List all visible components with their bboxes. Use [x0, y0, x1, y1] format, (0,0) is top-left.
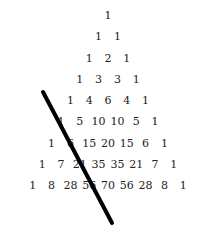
diagonal-line	[0, 0, 216, 244]
